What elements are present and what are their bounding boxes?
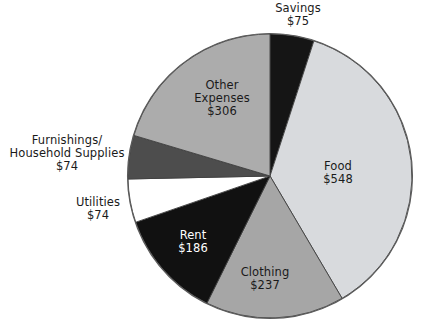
- slice-label-rent-value: $186: [158, 242, 228, 255]
- slice-label-savings-value: $75: [238, 15, 358, 28]
- slice-label-other-expenses-value: $306: [172, 105, 272, 118]
- slice-label-furnishings-value: $74: [2, 160, 132, 173]
- slice-label-clothing: Clothing $237: [222, 266, 308, 292]
- slice-label-rent: Rent $186: [158, 229, 228, 255]
- slice-label-food: Food $548: [300, 160, 376, 186]
- slice-label-utilities: Utilities $74: [48, 196, 148, 222]
- pie-chart: Savings $75 Food $548 Clothing $237 Rent…: [0, 0, 422, 328]
- slice-label-utilities-value: $74: [48, 209, 148, 222]
- slice-label-food-value: $548: [300, 173, 376, 186]
- slice-label-furnishings: Furnishings/ Household Supplies $74: [2, 134, 132, 173]
- slice-label-clothing-value: $237: [222, 279, 308, 292]
- slice-label-savings: Savings $75: [238, 2, 358, 28]
- slice-label-other-expenses: Other Expenses $306: [172, 79, 272, 118]
